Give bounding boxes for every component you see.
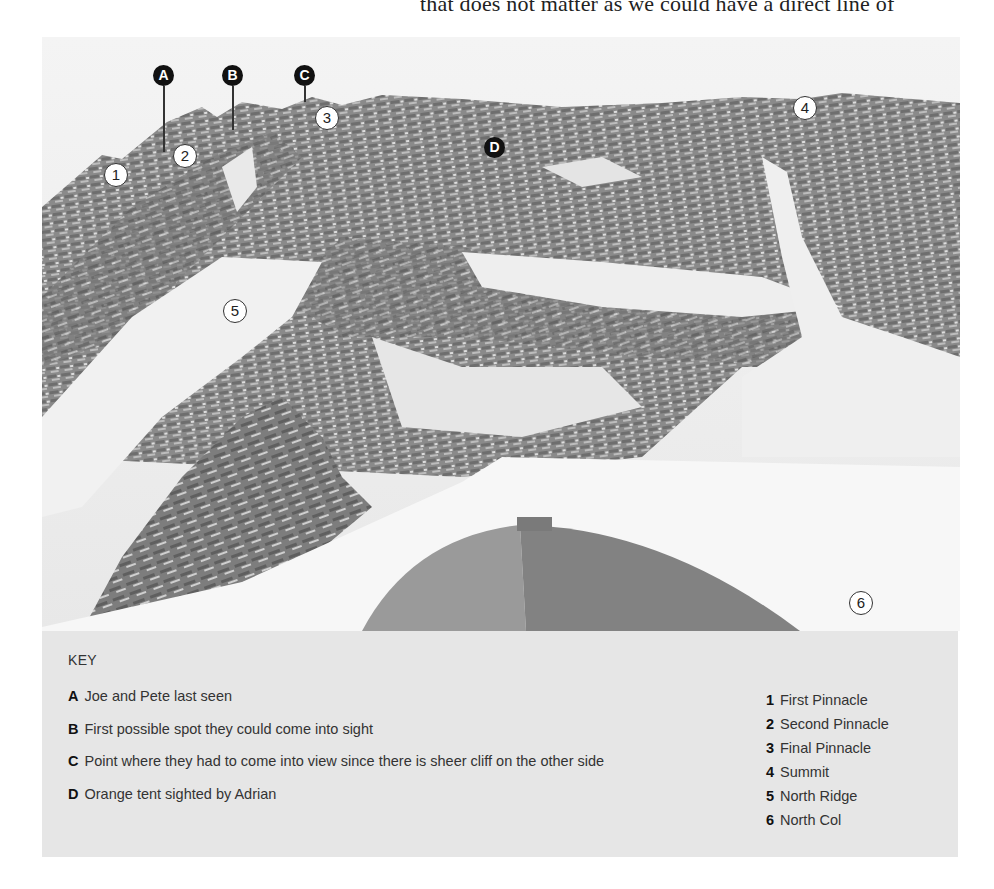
key-title: KEY	[68, 652, 97, 668]
leader-line-a	[163, 86, 165, 152]
key-letter: C	[68, 753, 78, 769]
marker-6: 6	[849, 591, 873, 615]
key-text: First possible spot they could come into…	[84, 721, 373, 737]
key-panel: KEY AJoe and Pete last seen BFirst possi…	[42, 631, 958, 857]
key-letter: D	[68, 786, 78, 802]
marker-b: B	[222, 65, 243, 86]
key-text: North Ridge	[780, 788, 857, 804]
key-letter: B	[68, 721, 78, 737]
key-number: 6	[766, 812, 780, 828]
key-number: 3	[766, 740, 780, 756]
key-item-5: 5North Ridge	[766, 788, 857, 804]
leader-line-b	[232, 86, 234, 130]
leader-line-c	[304, 86, 306, 102]
key-number: 5	[766, 788, 780, 804]
marker-5: 5	[223, 299, 247, 323]
key-item-2: 2Second Pinnacle	[766, 716, 889, 732]
key-item-d: DOrange tent sighted by Adrian	[68, 786, 276, 802]
mountain-illustration	[42, 37, 960, 631]
key-number: 4	[766, 764, 780, 780]
key-letter: A	[68, 688, 78, 704]
mountain-photo: A B C D 1 2 3 4 5 6	[42, 37, 960, 631]
key-number: 2	[766, 716, 780, 732]
body-text-line: that does not matter as we could have a …	[420, 0, 894, 17]
key-text: Joe and Pete last seen	[84, 688, 232, 704]
marker-d: D	[484, 137, 505, 158]
key-item-b: BFirst possible spot they could come int…	[68, 721, 373, 737]
key-text: North Col	[780, 812, 841, 828]
key-text: Point where they had to come into view s…	[84, 753, 604, 769]
key-text: First Pinnacle	[780, 692, 868, 708]
key-item-a: AJoe and Pete last seen	[68, 688, 232, 704]
marker-a: A	[153, 65, 174, 86]
key-item-3: 3Final Pinnacle	[766, 740, 871, 756]
marker-3: 3	[315, 106, 339, 130]
marker-1: 1	[104, 163, 128, 187]
marker-c: C	[294, 65, 315, 86]
key-number: 1	[766, 692, 780, 708]
marker-4: 4	[793, 96, 817, 120]
key-text: Second Pinnacle	[780, 716, 889, 732]
key-item-6: 6North Col	[766, 812, 841, 828]
key-text: Final Pinnacle	[780, 740, 871, 756]
key-item-c: CPoint where they had to come into view …	[68, 753, 604, 769]
key-text: Summit	[780, 764, 829, 780]
key-item-1: 1First Pinnacle	[766, 692, 868, 708]
key-item-4: 4Summit	[766, 764, 829, 780]
key-text: Orange tent sighted by Adrian	[84, 786, 276, 802]
marker-2: 2	[173, 144, 197, 168]
